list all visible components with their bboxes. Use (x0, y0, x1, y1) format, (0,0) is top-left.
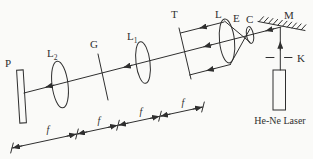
laser-tube (273, 70, 286, 110)
label-lens-L1: L1 (127, 30, 138, 45)
dimension-line: f f f f (11, 97, 205, 153)
label-aperture-K: K (297, 52, 305, 64)
screen-plate-P (17, 70, 27, 123)
focal-length-label-1: f (47, 124, 51, 135)
optics-diagram-canvas: f f f f P L2 G L1 T L E C M K He-Ne Lase… (0, 0, 313, 159)
dim-arrow (78, 132, 87, 134)
object-plate-T (179, 28, 191, 79)
dimension-baseline (12, 107, 203, 148)
arrow-G-L1 (124, 65, 132, 67)
label-laser: He-Ne Laser (254, 115, 306, 126)
focal-length-label-2: f (98, 115, 102, 126)
label-lens-L2: L2 (47, 47, 58, 62)
label-mirror-M: M (284, 9, 294, 21)
grating-plane-G (98, 54, 108, 100)
focal-length-label-3: f (140, 106, 144, 117)
label-object-T: T (171, 8, 178, 20)
dim-arrow (13, 146, 22, 148)
optical-axis (24, 27, 281, 93)
label-screen-P: P (5, 57, 11, 69)
label-pinhole-E: E (233, 12, 240, 24)
dim-arrow (193, 107, 202, 109)
arrow-ray-bottom (207, 69, 215, 71)
mirror-surface (258, 22, 305, 31)
dim-arrow (119, 123, 128, 125)
label-objective-C: C (246, 13, 253, 25)
optics-diagram: f f f f P L2 G L1 T L E C M K He-Ne Lase… (0, 0, 313, 159)
arrow-ray-axis (204, 45, 212, 47)
label-lens-L: L (215, 8, 222, 20)
dim-arrow (108, 126, 117, 128)
arrow-ray-top (200, 26, 208, 28)
dim-arrow (67, 134, 76, 136)
arrow-mirror-to-C (266, 29, 274, 31)
lens-L2 (49, 60, 71, 109)
dim-arrow (161, 114, 170, 116)
focal-length-label-4: f (182, 97, 186, 108)
dim-arrow (150, 117, 159, 119)
converging-rays (225, 21, 251, 64)
mirror-M (258, 17, 306, 31)
label-grating-G: G (90, 38, 98, 50)
